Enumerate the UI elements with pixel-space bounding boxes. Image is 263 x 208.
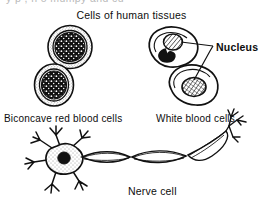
- nucleus-label: Nucleus: [216, 41, 258, 53]
- nerve-cell-nucleus: [58, 152, 70, 164]
- axon: [82, 131, 228, 163]
- nerve-cell-label: Nerve cell: [128, 185, 177, 197]
- red-blood-cells-label: Biconcave red blood cells: [4, 113, 122, 124]
- figure-drawing: [0, 0, 263, 208]
- white-blood-cells-label: White blood cells: [156, 113, 235, 124]
- white-blood-cell-lower: [169, 65, 218, 105]
- red-blood-cell-lower: [35, 64, 74, 106]
- figure-title: Cells of human tissues: [0, 9, 263, 21]
- red-blood-cell-upper: [48, 26, 92, 69]
- white-blood-cell-upper: [149, 27, 198, 67]
- cells-of-human-tissues-figure: y p , n o mumpy and cu: [0, 0, 263, 208]
- nucleus-lower-wbc: [182, 78, 206, 97]
